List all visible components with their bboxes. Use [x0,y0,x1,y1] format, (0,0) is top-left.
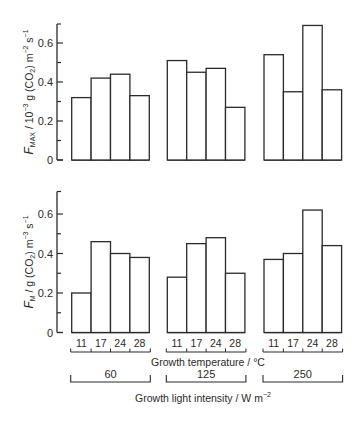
y-tick-label: 0.4 [38,76,53,88]
temperature-tick-label: 24 [114,337,126,349]
y-tick-label: 0.2 [38,115,53,127]
bar-group-250 [264,25,342,160]
bar-125-28 [226,273,245,332]
x-axis-labels: 11172428601117242812511172428250Growth t… [71,337,343,404]
y-tick-label: 0.6 [38,37,53,49]
temperature-tick-label: 24 [210,337,222,349]
bar-group-60 [72,74,150,160]
bar-group-60 [72,242,150,333]
temperature-tick-label: 11 [76,337,87,349]
bar-60-17 [91,78,110,160]
bar-125-24 [206,238,225,333]
light-intensity-label: 125 [197,368,215,380]
y-tick-label: 0 [47,327,53,339]
bar-250-17 [283,92,302,160]
bar-125-11 [167,61,186,160]
temperature-tick-label: 11 [172,337,183,349]
y-axis-label: FM / g (CO2) m−3 s−1 [22,215,36,308]
y-tick-label: 0.4 [38,248,53,260]
temperature-tick-label: 28 [229,337,241,349]
temperature-tick-label: 17 [287,337,299,349]
bar-60-28 [130,257,149,332]
bar-60-24 [111,74,130,160]
bar-group-250 [264,210,342,332]
bar-250-11 [264,55,283,160]
bar-250-28 [322,90,341,160]
bar-group-125 [167,238,245,333]
temperature-tick-label: 17 [191,337,203,349]
y-tick-label: 0 [47,154,53,166]
y-axis-label: FMAX / 10−3 g (CO2) m−2 s−1 [22,29,36,154]
temperature-tick-label: 28 [326,337,338,349]
x-axis-title-light-intensity: Growth light intensity / W m−2 [135,391,271,404]
bar-125-17 [187,72,206,160]
bar-60-17 [91,242,110,333]
temperature-tick-label: 11 [268,337,279,349]
bar-60-11 [72,293,91,333]
light-intensity-label: 250 [294,368,312,380]
bar-60-28 [130,96,149,160]
bar-125-11 [167,277,186,332]
temperature-tick-label: 24 [307,337,319,349]
bar-125-28 [226,107,245,160]
bar-250-28 [322,246,341,333]
bar-125-24 [206,68,225,160]
bar-250-11 [264,259,283,332]
bar-60-11 [72,98,91,160]
light-intensity-label: 60 [104,368,116,380]
x-axis-title-temperature: Growth temperature / °C [151,356,265,368]
bar-250-24 [303,210,322,332]
bar-60-24 [111,254,130,333]
bar-125-17 [187,244,206,333]
bar-chart-figure: 00.20.40.6FMAX / 10−3 g (CO2) m−2 s−1 00… [0,0,363,424]
bar-group-125 [167,61,245,160]
top-panel-fmax: 00.20.40.6FMAX / 10−3 g (CO2) m−2 s−1 [22,24,342,166]
temperature-tick-label: 28 [134,337,146,349]
bottom-panel-fm: 00.20.40.6FM / g (CO2) m−3 s−1 [22,192,342,339]
y-tick-label: 0.6 [38,208,53,220]
temperature-tick-label: 17 [95,337,107,349]
bar-250-24 [303,25,322,160]
y-tick-label: 0.2 [38,287,53,299]
bar-250-17 [283,254,302,333]
